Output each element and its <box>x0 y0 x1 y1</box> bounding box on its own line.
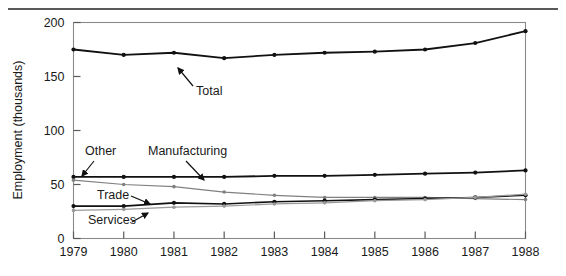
series-line <box>74 170 526 176</box>
data-point-marker <box>122 208 126 212</box>
data-point-marker <box>373 173 377 177</box>
data-point-marker <box>72 178 76 182</box>
data-point-marker <box>172 185 176 189</box>
x-tick-label: 1986 <box>411 245 439 259</box>
annotation-label: Services <box>88 213 136 227</box>
x-tick-label: 1979 <box>60 245 88 259</box>
data-point-marker <box>172 51 176 55</box>
data-point-marker <box>524 192 528 196</box>
data-point-marker <box>473 196 477 200</box>
data-point-marker <box>272 53 276 57</box>
annotation-other: Other <box>82 144 116 176</box>
x-axis-ticks: 1979198019811982198319841985198619871988 <box>60 232 540 259</box>
data-point-marker <box>122 175 126 179</box>
data-point-marker <box>524 198 528 202</box>
y-tick-label: 50 <box>51 178 65 192</box>
x-tick-label: 1982 <box>210 245 238 259</box>
data-point-marker <box>273 194 277 198</box>
x-tick-label: 1985 <box>361 245 389 259</box>
chart-figure: 050100150200 197919801981198219831984198… <box>0 0 566 276</box>
series-line <box>74 31 526 58</box>
data-point-marker <box>523 168 527 172</box>
data-point-marker <box>473 41 477 45</box>
data-point-marker <box>273 202 277 206</box>
data-point-marker <box>122 183 126 187</box>
data-point-marker <box>222 204 226 208</box>
data-point-marker <box>222 175 226 179</box>
series-layer <box>71 29 527 212</box>
data-point-marker <box>72 209 76 213</box>
annotation-label: Trade <box>97 188 129 202</box>
data-point-marker <box>323 174 327 178</box>
data-point-marker <box>222 190 226 194</box>
x-tick-label: 1988 <box>512 245 540 259</box>
annotation-label: Total <box>196 84 222 98</box>
data-point-marker <box>323 201 327 205</box>
series-other <box>71 168 527 179</box>
data-point-marker <box>172 201 176 205</box>
x-tick-label: 1980 <box>110 245 138 259</box>
annotation-manufacturing: Manufacturing <box>148 144 227 180</box>
annotation-services: Services <box>88 213 148 227</box>
data-point-marker <box>423 47 427 51</box>
data-point-marker <box>71 204 75 208</box>
x-tick-label: 1987 <box>461 245 489 259</box>
data-point-marker <box>172 175 176 179</box>
annotation-total: Total <box>178 68 222 98</box>
data-point-marker <box>523 29 527 33</box>
data-point-marker <box>122 53 126 57</box>
annotation-arrow <box>82 161 94 176</box>
x-tick-label: 1981 <box>160 245 188 259</box>
annotation-arrow <box>178 68 193 86</box>
data-point-marker <box>272 174 276 178</box>
series-line <box>74 180 526 199</box>
y-tick-label: 100 <box>44 124 65 138</box>
series-trade <box>71 193 527 208</box>
annotation-arrow <box>131 196 150 204</box>
data-point-marker <box>323 51 327 55</box>
chart-svg: 050100150200 197919801981198219831984198… <box>0 0 566 276</box>
x-tick-label: 1984 <box>311 245 339 259</box>
data-point-marker <box>373 199 377 203</box>
data-point-marker <box>222 56 226 60</box>
data-point-marker <box>423 172 427 176</box>
data-point-marker <box>172 205 176 209</box>
annotation-label: Manufacturing <box>148 144 227 158</box>
data-point-marker <box>71 47 75 51</box>
data-point-marker <box>423 198 427 202</box>
series-services <box>72 192 528 212</box>
line-chart: 050100150200 197919801981198219831984198… <box>0 0 566 276</box>
y-tick-label: 150 <box>44 70 65 84</box>
data-point-marker <box>373 50 377 54</box>
y-axis-title: Employment (thousands) <box>11 61 25 200</box>
annotation-trade: Trade <box>97 188 150 204</box>
annotation-label: Other <box>85 144 116 158</box>
y-tick-label: 200 <box>44 16 65 30</box>
x-tick-label: 1983 <box>260 245 288 259</box>
data-point-marker <box>473 171 477 175</box>
series-total <box>71 29 527 60</box>
